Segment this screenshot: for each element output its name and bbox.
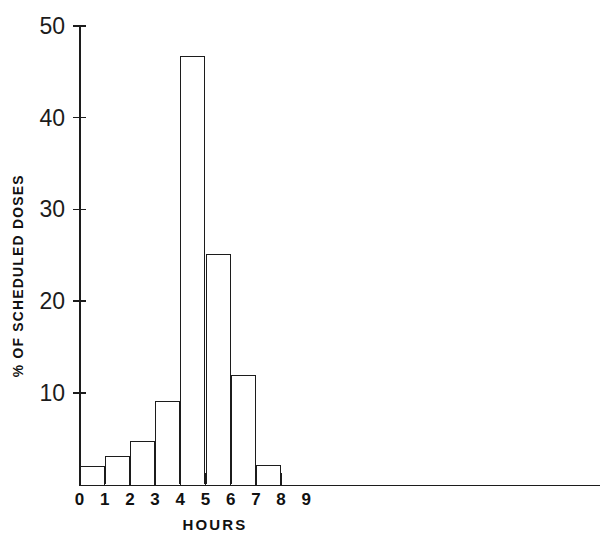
chart-figure: 1020304050 0123456789 % OF SCHEDULED DOS… bbox=[0, 0, 611, 551]
x-tick-label: 3 bbox=[150, 490, 159, 510]
x-tick-mark bbox=[79, 473, 80, 485]
bar bbox=[256, 465, 281, 484]
x-tick-mark bbox=[255, 473, 256, 485]
x-tick-mark bbox=[104, 473, 105, 485]
bar bbox=[155, 401, 180, 484]
x-tick-mark bbox=[180, 473, 181, 485]
x-tick-mark bbox=[205, 473, 206, 485]
plot-area: 1020304050 0123456789 bbox=[0, 0, 611, 551]
x-tick-mark bbox=[154, 473, 155, 485]
x-tick-label: 4 bbox=[176, 490, 185, 510]
x-tick-mark bbox=[230, 473, 231, 485]
x-tick-label: 1 bbox=[100, 490, 109, 510]
y-tick-mark bbox=[73, 117, 86, 119]
bar bbox=[130, 441, 155, 484]
bar bbox=[206, 254, 231, 484]
y-tick-label: 10 bbox=[39, 379, 65, 406]
y-tick-label: 40 bbox=[39, 104, 65, 131]
y-axis-title-text: % OF SCHEDULED DOSES bbox=[9, 174, 26, 377]
y-axis-title: % OF SCHEDULED DOSES bbox=[0, 0, 34, 551]
bar bbox=[180, 56, 205, 484]
bar bbox=[105, 456, 130, 484]
x-tick-label: 7 bbox=[251, 490, 260, 510]
x-axis-line bbox=[79, 485, 600, 487]
y-tick-label: 20 bbox=[39, 288, 65, 315]
x-tick-label: 0 bbox=[75, 490, 84, 510]
y-axis-line bbox=[79, 26, 81, 486]
y-tick-mark bbox=[73, 300, 86, 302]
y-tick-label: 50 bbox=[39, 13, 65, 40]
x-tick-label: 2 bbox=[125, 490, 134, 510]
bar bbox=[231, 375, 256, 484]
x-tick-label: 5 bbox=[201, 490, 210, 510]
y-tick-mark bbox=[73, 209, 86, 211]
x-tick-mark bbox=[129, 473, 130, 485]
x-axis-title: HOURS bbox=[0, 516, 430, 533]
x-tick-label: 8 bbox=[276, 490, 285, 510]
y-tick-mark bbox=[73, 392, 86, 394]
x-tick-mark bbox=[280, 473, 281, 485]
x-tick-label: 6 bbox=[226, 490, 235, 510]
y-tick-label: 30 bbox=[39, 196, 65, 223]
bar bbox=[80, 466, 105, 484]
y-tick-mark bbox=[73, 25, 86, 27]
x-tick-label: 9 bbox=[302, 490, 311, 510]
